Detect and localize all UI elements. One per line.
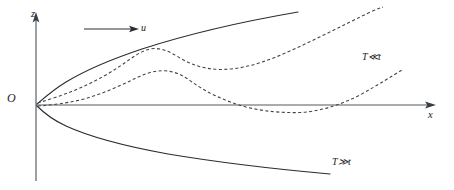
- x-axis-label: x: [428, 110, 433, 121]
- origin-label: O: [7, 92, 16, 104]
- mean-plume-lower-envelope-curve: [37, 106, 330, 174]
- long-averaging-time-label: T≫t: [332, 157, 351, 167]
- wind-vector-label: u: [141, 23, 146, 33]
- curves-group: [37, 7, 402, 174]
- instantaneous-plume-lower-boundary-curve: [38, 70, 402, 113]
- z-axis-label: z: [31, 9, 35, 20]
- instantaneous-plume-upper-boundary-curve: [38, 7, 383, 103]
- plume-dispersion-figure: z x O u T≪t T≫t: [0, 0, 454, 190]
- wind-vector-group: [84, 26, 139, 32]
- figure-canvas: [0, 0, 454, 190]
- short-averaging-time-label: T≪t: [362, 52, 381, 62]
